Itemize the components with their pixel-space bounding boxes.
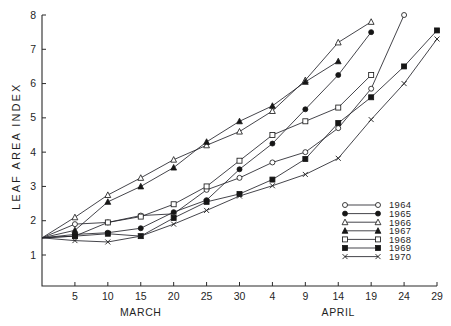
y-axis-title: LEAF AREA INDEX (10, 83, 22, 210)
series-line-1968 (42, 75, 371, 238)
legend-marker-open-circle (376, 203, 381, 208)
x-tick-label: 29 (431, 290, 443, 302)
data-point-1967 (335, 58, 341, 64)
legend-marker-filled-square (343, 246, 348, 251)
data-point-1968 (303, 119, 308, 124)
x-tick-label: 5 (72, 290, 78, 302)
series-1966 (42, 19, 374, 238)
legend-marker-filled-circle (343, 211, 348, 216)
data-point-1965 (138, 226, 143, 231)
month-label-april: APRIL (322, 306, 355, 318)
data-series-group (42, 13, 440, 245)
leaf-area-index-chart: 12345678 510152025304914192429 MARCHAPRI… (0, 0, 451, 326)
x-tick-label: 10 (102, 290, 114, 302)
data-point-1966 (335, 39, 341, 45)
legend-label-1970: 1970 (389, 251, 411, 262)
data-point-1964 (369, 86, 374, 91)
legend-marker-open-square (343, 237, 348, 242)
data-point-1966 (138, 175, 144, 181)
legend-marker-open-circle (343, 203, 348, 208)
data-point-1964 (237, 175, 242, 180)
month-label-march: MARCH (120, 306, 162, 318)
data-point-1966 (72, 214, 78, 220)
data-point-1964 (270, 160, 275, 165)
data-point-1967 (270, 103, 276, 109)
x-tick-label: 15 (135, 290, 147, 302)
data-point-1968 (270, 133, 275, 138)
x-tick-label: 19 (365, 290, 377, 302)
x-tick-label: 30 (234, 290, 246, 302)
x-tick-label: 14 (332, 290, 344, 302)
data-point-1966 (105, 192, 111, 198)
data-point-1967 (105, 199, 111, 205)
data-point-1969 (72, 234, 77, 239)
data-point-1964 (336, 126, 341, 131)
legend-marker-filled-circle (376, 211, 381, 216)
series-1968 (42, 73, 374, 239)
legend-marker-filled-square (376, 246, 381, 251)
y-tick-label: 5 (30, 111, 36, 123)
x-tick-label: 9 (302, 290, 308, 302)
data-point-1968 (171, 202, 176, 207)
data-point-1969 (105, 231, 110, 236)
y-axis-ticks: 12345678 (30, 9, 46, 261)
y-tick-label: 4 (30, 146, 36, 158)
data-point-1969 (369, 95, 374, 100)
y-tick-label: 3 (30, 180, 36, 192)
series-line-1964 (42, 15, 404, 238)
data-point-1968 (204, 184, 209, 189)
x-axis-ticks: 510152025304914192429 (72, 282, 443, 302)
legend-item-1970[interactable]: 1970 (343, 251, 412, 262)
y-tick-label: 7 (30, 43, 36, 55)
legend-marker-open-square (376, 237, 381, 242)
data-point-1966 (171, 157, 177, 163)
data-point-1967 (237, 118, 243, 124)
chart-legend: 1964196519661967196819691970 (342, 199, 411, 262)
x-tick-label: 20 (168, 290, 180, 302)
y-tick-label: 6 (30, 77, 36, 89)
data-point-1965 (171, 210, 176, 215)
data-point-1964 (303, 150, 308, 155)
data-point-1969 (270, 177, 275, 182)
data-point-1969 (303, 157, 308, 162)
data-point-1968 (369, 73, 374, 78)
y-tick-label: 2 (30, 214, 36, 226)
series-line-1967 (42, 61, 338, 238)
data-point-1966 (368, 19, 374, 25)
data-point-1969 (435, 28, 440, 33)
data-point-1965 (336, 73, 341, 78)
data-point-1965 (270, 141, 275, 146)
y-tick-label: 8 (30, 9, 36, 21)
series-line-1965 (42, 32, 371, 238)
data-point-1965 (237, 167, 242, 172)
data-point-1969 (402, 64, 407, 69)
month-labels: MARCHAPRIL (120, 306, 355, 318)
data-point-1968 (138, 214, 143, 219)
series-1964 (42, 13, 407, 238)
x-tick-label: 25 (201, 290, 213, 302)
series-1965 (42, 30, 374, 238)
data-point-1969 (171, 215, 176, 220)
data-point-1964 (402, 13, 407, 18)
data-point-1965 (369, 30, 374, 35)
data-point-1967 (171, 164, 177, 170)
data-point-1966 (237, 128, 243, 134)
series-1967 (42, 58, 341, 238)
y-tick-label: 1 (30, 249, 36, 261)
data-point-1969 (336, 121, 341, 126)
data-point-1964 (72, 222, 77, 227)
data-point-1965 (303, 107, 308, 112)
data-point-1968 (105, 220, 110, 225)
data-point-1967 (138, 183, 144, 189)
data-point-1967 (204, 139, 210, 145)
x-tick-label: 24 (398, 290, 410, 302)
series-line-1966 (42, 22, 371, 238)
x-tick-label: 4 (269, 290, 275, 302)
data-point-1969 (204, 199, 209, 204)
data-point-1968 (336, 105, 341, 110)
data-point-1968 (237, 158, 242, 163)
